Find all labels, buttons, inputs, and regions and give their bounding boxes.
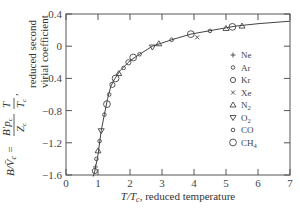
svg-text:CO: CO bbox=[241, 125, 254, 135]
data-points bbox=[92, 23, 245, 174]
y-tick-label: 0.4 bbox=[48, 8, 62, 20]
svg-text:virial coefficient: virial coefficient bbox=[38, 15, 50, 88]
legend: NeArKrXeN2O2COCH4 bbox=[230, 50, 258, 149]
x-axis-label: T/Tc, reduced temperature bbox=[121, 190, 236, 204]
y-axis-label: B/V̄c = B′pc Zc T Tc , reduced second vi… bbox=[0, 15, 50, 176]
axis-ticks: 012345670.40−0.4−0.8−1.2−1.6 bbox=[42, 8, 293, 189]
svg-text:T: T bbox=[0, 101, 12, 108]
y-tick-label: −1.6 bbox=[42, 169, 62, 181]
legend-item: Xe bbox=[231, 88, 252, 98]
x-tick-label: 6 bbox=[255, 177, 261, 189]
x-tick-label: 7 bbox=[287, 177, 293, 189]
svg-text:CH4: CH4 bbox=[241, 138, 258, 149]
svg-text:Zc: Zc bbox=[14, 122, 28, 132]
fitted-curve bbox=[93, 21, 290, 176]
legend-item: N2 bbox=[230, 100, 251, 111]
y-tick-label: −0.8 bbox=[42, 105, 62, 117]
svg-text:N2: N2 bbox=[241, 100, 251, 111]
legend-item: Ne bbox=[231, 50, 252, 60]
svg-text:reduced second: reduced second bbox=[26, 19, 38, 88]
y-tick-label: 0 bbox=[57, 40, 63, 52]
x-tick-label: 4 bbox=[191, 177, 197, 189]
x-tick-label: 3 bbox=[159, 177, 165, 189]
svg-text:Ne: Ne bbox=[241, 50, 252, 60]
svg-text:O2: O2 bbox=[241, 113, 251, 124]
x-tick-label: 5 bbox=[223, 177, 229, 189]
svg-text:Tc: Tc bbox=[14, 98, 28, 108]
svg-text:Kr: Kr bbox=[241, 75, 251, 85]
legend-item: Kr bbox=[230, 75, 250, 85]
y-tick-label: −1.2 bbox=[42, 137, 62, 149]
svg-text:,: , bbox=[7, 93, 19, 96]
svg-text:B/V̄c =: B/V̄c = bbox=[4, 146, 18, 176]
legend-item: CO bbox=[231, 125, 254, 135]
virial-coefficient-chart: 012345670.40−0.4−0.8−1.2−1.6 NeArKrXeN2O… bbox=[0, 0, 300, 217]
svg-text:B′pc: B′pc bbox=[0, 117, 14, 136]
legend-item: Ar bbox=[231, 63, 250, 73]
x-tick-label: 0 bbox=[63, 177, 69, 189]
x-tick-label: 2 bbox=[127, 177, 133, 189]
svg-text:Xe: Xe bbox=[241, 88, 252, 98]
legend-item: CH4 bbox=[230, 138, 258, 149]
x-tick-label: 1 bbox=[95, 177, 101, 189]
legend-item: O2 bbox=[230, 113, 251, 124]
svg-text:Ar: Ar bbox=[241, 63, 251, 73]
